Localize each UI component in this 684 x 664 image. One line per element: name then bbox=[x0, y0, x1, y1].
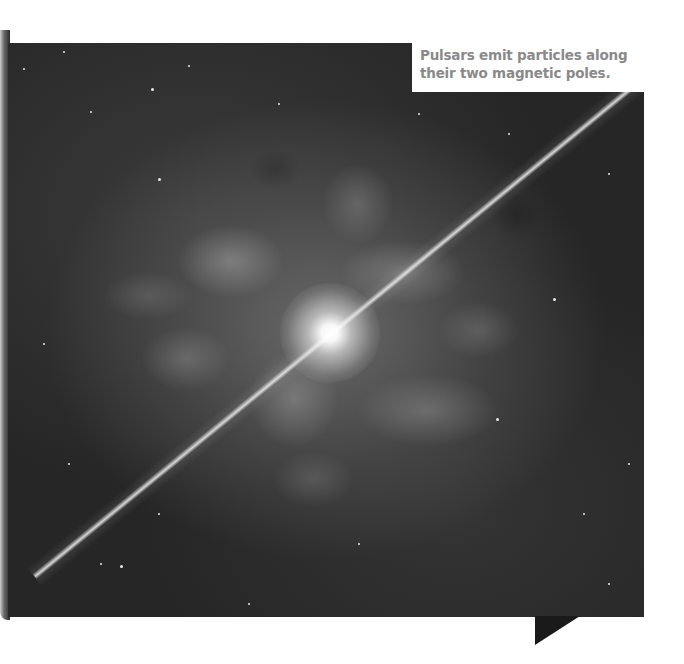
star bbox=[158, 178, 161, 181]
star bbox=[68, 463, 70, 465]
star bbox=[628, 463, 630, 465]
star bbox=[100, 563, 102, 565]
caption-line-1: Pulsars emit particles along bbox=[420, 46, 646, 64]
star bbox=[23, 68, 25, 70]
star bbox=[608, 173, 610, 175]
caption-box: Pulsars emit particles along their two m… bbox=[412, 43, 646, 92]
caption-line-2: their two magnetic poles. bbox=[420, 64, 646, 82]
star bbox=[608, 583, 610, 585]
star bbox=[120, 565, 123, 568]
star bbox=[508, 133, 510, 135]
figure-caption: Pulsars emit particles along their two m… bbox=[420, 46, 646, 82]
star bbox=[496, 418, 499, 421]
pulsar-illustration bbox=[8, 43, 644, 617]
star bbox=[188, 65, 190, 67]
star bbox=[90, 111, 92, 113]
star bbox=[63, 51, 65, 53]
star bbox=[158, 513, 160, 515]
star bbox=[418, 113, 420, 115]
star bbox=[358, 543, 360, 545]
star bbox=[278, 103, 280, 105]
star bbox=[151, 88, 154, 91]
callout-tail bbox=[535, 616, 580, 645]
pulsar-core-glow bbox=[280, 283, 380, 383]
star bbox=[248, 603, 250, 605]
star bbox=[43, 343, 45, 345]
star bbox=[553, 298, 556, 301]
star bbox=[583, 513, 585, 515]
